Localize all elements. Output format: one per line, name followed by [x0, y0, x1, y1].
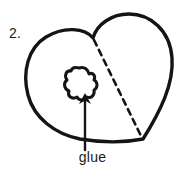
heart-outline-path	[26, 14, 172, 142]
glue-blob-outline	[65, 67, 97, 100]
instruction-figure: 2. glue	[0, 0, 185, 171]
glue-caption-label: glue	[0, 150, 185, 165]
step-number-label: 2.	[9, 26, 21, 40]
fold-line-dashed	[94, 40, 142, 138]
heart-diagram-svg	[0, 0, 185, 171]
